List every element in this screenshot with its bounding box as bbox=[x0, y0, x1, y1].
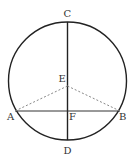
label-d: D bbox=[64, 145, 72, 156]
label-c: C bbox=[64, 8, 72, 19]
label-b: B bbox=[119, 111, 126, 122]
circle-diagram: C E A F B D bbox=[0, 0, 137, 162]
label-a: A bbox=[6, 111, 15, 122]
label-e: E bbox=[59, 73, 66, 84]
segment-ea bbox=[15, 86, 68, 111]
segment-eb bbox=[68, 86, 121, 111]
label-f: F bbox=[69, 111, 76, 122]
